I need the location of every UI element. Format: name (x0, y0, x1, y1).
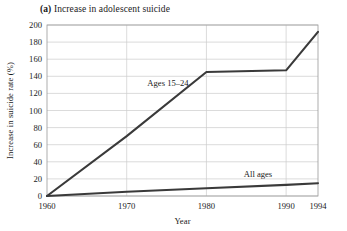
y-tick-label: 0 (38, 191, 42, 201)
y-tick-label: 40 (33, 157, 42, 167)
y-tick-label: 200 (29, 20, 42, 30)
y-tick-label: 160 (29, 54, 42, 64)
horizontal-gridlines (47, 25, 318, 196)
x-tick-label: 1980 (198, 201, 215, 211)
y-tick-label: 20 (33, 174, 42, 184)
x-tick-label: 1990 (278, 201, 295, 211)
series-lines (47, 32, 318, 196)
y-axis-tick-labels: 020406080100120140160180200 (29, 20, 42, 201)
x-tick-label: 1960 (38, 201, 55, 211)
x-axis-tick-labels: 19601970198019901994 (38, 201, 327, 211)
y-tick-label: 60 (33, 140, 42, 150)
series-label-1: Ages 15–24 (147, 78, 189, 88)
x-tick-label: 1970 (118, 201, 135, 211)
series-line-2 (47, 183, 318, 196)
series-label-2: All ages (244, 169, 273, 179)
line-chart: 020406080100120140160180200 196019701980… (0, 0, 347, 231)
y-tick-label: 80 (33, 123, 42, 133)
y-tick-label: 120 (29, 88, 42, 98)
y-tick-label: 100 (29, 106, 42, 116)
y-tick-label: 180 (29, 37, 42, 47)
x-tick-label: 1994 (309, 201, 327, 211)
y-tick-label: 140 (29, 71, 42, 81)
x-axis-title: Year (174, 216, 190, 226)
figure-panel: (a) Increase in adolescent suicide 02040… (0, 0, 347, 231)
y-axis-title: Increase in suicide rate (%) (5, 62, 15, 159)
series-line-1 (47, 32, 318, 196)
